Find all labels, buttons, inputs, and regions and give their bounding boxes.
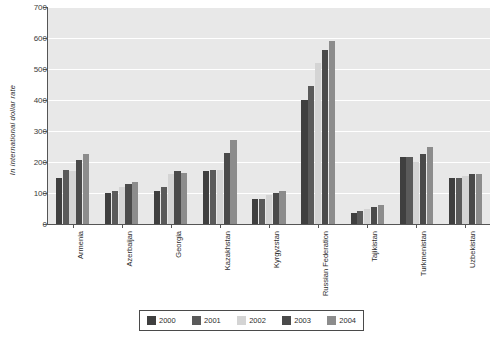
x-axis-tick-mark: [122, 224, 123, 228]
legend-label: 2002: [249, 316, 266, 325]
bar: [132, 182, 138, 224]
bar: [322, 50, 328, 224]
bar-group: [441, 7, 490, 224]
x-axis-tick-mark: [171, 224, 172, 228]
bar-group: [48, 7, 97, 224]
bar-group: [343, 7, 392, 224]
legend-swatch-icon: [147, 316, 156, 325]
x-axis-tick-mark: [367, 224, 368, 228]
x-axis-label-text: Armenia: [76, 231, 85, 259]
bar-group: [195, 7, 244, 224]
bar: [112, 191, 118, 224]
chart-legend: 20002001200220032004: [139, 310, 364, 331]
x-axis-tick-mark: [73, 224, 74, 228]
bar-group: [294, 7, 343, 224]
x-axis-tick-mark: [318, 224, 319, 228]
x-axis-label-text: Turkmenistan: [419, 231, 428, 276]
bar: [400, 157, 406, 224]
bar-group: [244, 7, 293, 224]
x-axis-label-text: Kyrgyzstan: [272, 231, 281, 268]
bar: [105, 193, 111, 224]
bar: [174, 171, 180, 224]
bar: [364, 209, 370, 225]
legend-swatch-icon: [237, 316, 246, 325]
bar-chart: In international dollar rate 70060050040…: [0, 0, 502, 348]
bar: [308, 86, 314, 224]
bar: [371, 207, 377, 224]
x-axis-label-text: Azerbaijan: [125, 231, 134, 266]
legend-item[interactable]: 2003: [282, 316, 311, 325]
x-axis-labels: ArmeniaAzerbaijanGeorgiaKazakhstanKyrgyz…: [48, 229, 490, 304]
bar: [119, 187, 125, 224]
bar: [456, 178, 462, 225]
bar: [378, 205, 384, 224]
bar: [210, 170, 216, 224]
bar: [449, 178, 455, 225]
bar: [217, 170, 223, 224]
bar: [476, 174, 482, 224]
y-axis-ticks: 7006005004003002001000: [0, 0, 47, 232]
bar: [203, 171, 209, 224]
bar: [154, 191, 160, 224]
bar: [301, 100, 307, 224]
bar: [273, 193, 279, 224]
legend-label: 2001: [204, 316, 221, 325]
x-axis-label-text: Russian Federation: [321, 231, 330, 296]
legend-item[interactable]: 2001: [192, 316, 221, 325]
legend-label: 2003: [294, 316, 311, 325]
bar: [230, 140, 236, 224]
bar: [252, 199, 258, 224]
bar: [420, 154, 426, 224]
legend-swatch-icon: [192, 316, 201, 325]
legend-swatch-icon: [327, 316, 336, 325]
bar: [315, 63, 321, 224]
x-axis-label-text: Uzbekistan: [468, 231, 477, 268]
bar: [63, 170, 69, 224]
x-axis-label-text: Georgia: [174, 231, 183, 258]
legend-item[interactable]: 2004: [327, 316, 356, 325]
legend-item[interactable]: 2000: [147, 316, 176, 325]
bar: [83, 154, 89, 224]
bar: [406, 157, 412, 224]
bar: [279, 191, 285, 224]
legend-swatch-icon: [282, 316, 291, 325]
bar: [427, 147, 433, 225]
legend-label: 2004: [339, 316, 356, 325]
bar: [125, 184, 131, 224]
bar: [266, 195, 272, 224]
y-axis-tick-label: 300: [3, 127, 47, 136]
y-axis-tick-label: 100: [3, 189, 47, 198]
bar: [329, 41, 335, 224]
y-axis-tick-label: 200: [3, 158, 47, 167]
y-axis-tick-label: 400: [3, 96, 47, 105]
bar-group: [146, 7, 195, 224]
bar: [259, 199, 265, 224]
y-axis-tick-label: 600: [3, 34, 47, 43]
legend-item[interactable]: 2002: [237, 316, 266, 325]
y-axis-tick-label: 0: [3, 220, 47, 229]
bar: [351, 213, 357, 224]
x-axis-tick-mark: [416, 224, 417, 228]
bars-layer: [48, 7, 490, 224]
y-axis-tick-label: 700: [3, 3, 47, 12]
bar: [224, 153, 230, 224]
bar: [161, 187, 167, 224]
x-axis-tick-mark: [465, 224, 466, 228]
bar: [56, 178, 62, 225]
x-axis-label-text: Kazakhstan: [223, 231, 232, 270]
bar: [469, 174, 475, 224]
x-axis-tick-mark: [220, 224, 221, 228]
bar: [462, 176, 468, 224]
x-axis-label-text: Tajikistan: [370, 231, 379, 262]
bar: [76, 160, 82, 224]
bar-group: [97, 7, 146, 224]
bar: [69, 171, 75, 224]
legend-label: 2000: [159, 316, 176, 325]
bar: [181, 173, 187, 224]
bar: [357, 211, 363, 224]
x-axis-tick-mark: [269, 224, 270, 228]
y-axis-tick-label: 500: [3, 65, 47, 74]
bar: [413, 162, 419, 224]
bar: [168, 174, 174, 224]
bar-group: [392, 7, 441, 224]
